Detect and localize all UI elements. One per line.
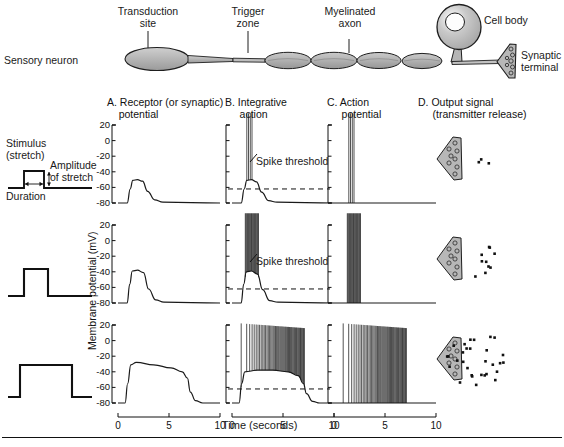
- myelinated-axon-shape: [265, 52, 442, 68]
- x-tick-label: 0: [108, 420, 128, 431]
- stimulus-pulse-row2: [0, 255, 96, 303]
- trace-integrative-action-row3: [232, 370, 334, 403]
- spike-train-col1-row1: [247, 113, 252, 180]
- stimulus-legend-title: Stimulus (stretch): [6, 138, 46, 161]
- y-axis-row1-col1: [226, 125, 230, 203]
- y-tick-label: -40: [88, 166, 110, 177]
- trace-receptor-potential-row1: [118, 180, 220, 203]
- synaptic-terminal-output-row1: [437, 137, 462, 180]
- column-header-c: C. Action potential: [327, 97, 381, 121]
- bottom-rule: [2, 437, 562, 438]
- trace-receptor-potential-row2: [118, 270, 220, 303]
- y-axis-row1-col0: [112, 125, 116, 203]
- y-axis-row3-col2: [328, 325, 332, 403]
- spike-threshold-leader-row1: [248, 153, 262, 167]
- y-tick-label: 0: [88, 235, 110, 246]
- figure-root: Transduction site Trigger zone Myelinate…: [0, 0, 564, 447]
- spike-train-col1-row2: [245, 213, 258, 277]
- trace-integrative-action-row2: [232, 271, 334, 303]
- x-tick-label: 0: [324, 420, 344, 431]
- spike-train-col2-row2: [347, 213, 360, 303]
- label-trigger-zone: Trigger zone: [206, 6, 290, 29]
- axon-initial-segment: [188, 56, 265, 64]
- y-axis-row3-col1: [226, 325, 230, 403]
- spike-train-col1-row3: [241, 323, 304, 387]
- stimulus-pulse-row1: [0, 160, 96, 196]
- y-tick-label: -20: [88, 350, 110, 361]
- y-tick-label: 0: [88, 335, 110, 346]
- stimulus-pulse-row3: [0, 352, 96, 404]
- transmitter-dots-row3: [446, 336, 505, 387]
- y-tick-label: 20: [88, 119, 110, 130]
- column-header-d: D. Output signal (transmitter release): [418, 97, 527, 121]
- x-axis-row3-col1: [232, 413, 334, 417]
- x-axis-row3-col2: [334, 413, 436, 417]
- spike-train-col2-row3: [343, 323, 406, 403]
- x-tick-label: 5: [375, 420, 395, 431]
- y-tick-label: -80: [88, 397, 110, 408]
- y-tick-label: -60: [88, 381, 110, 392]
- y-tick-label: 0: [88, 135, 110, 146]
- synaptic-terminal-output-row2: [437, 237, 462, 280]
- y-tick-label: -80: [88, 197, 110, 208]
- y-tick-label: 20: [88, 319, 110, 330]
- y-tick-label: -20: [88, 150, 110, 161]
- spike-threshold-leader-row2: [248, 253, 262, 267]
- x-axis-label: Time (seconds): [222, 420, 297, 432]
- label-transduction-site: Transduction site: [86, 6, 210, 29]
- spike-train-col2-row1: [349, 113, 354, 203]
- label-cell-body: Cell body: [484, 15, 528, 27]
- transmitter-dots-row1: [478, 158, 491, 165]
- label-sensory-neuron: Sensory neuron: [4, 55, 78, 67]
- y-axis-row3-col0: [112, 325, 116, 403]
- spike-threshold-label-row2: Spike threshold: [256, 256, 328, 268]
- label-synaptic-terminal: Synaptic terminal: [521, 50, 561, 73]
- y-axis-row1-col2: [328, 125, 332, 203]
- y-axis-row2-col2: [328, 225, 332, 303]
- y-tick-label: -40: [88, 266, 110, 277]
- x-tick-label: 5: [159, 420, 179, 431]
- x-tick-label: 10: [426, 420, 446, 431]
- column-header-a: A. Receptor (or synaptic) potential: [107, 97, 223, 121]
- trace-receptor-potential-row3: [118, 362, 220, 403]
- transmitter-dots-row2: [474, 246, 496, 278]
- annotation-leaders: [148, 31, 349, 53]
- y-tick-label: -40: [88, 366, 110, 377]
- x-axis-row3-col0: [118, 413, 220, 417]
- y-tick-label: -60: [88, 181, 110, 192]
- y-axis-row2-col0: [112, 225, 116, 303]
- label-myelinated-axon: Myelinated axon: [300, 6, 400, 29]
- spike-threshold-label-row1: Spike threshold: [256, 156, 328, 168]
- y-tick-label: -20: [88, 250, 110, 261]
- column-header-b: B. Integrative action: [225, 97, 287, 121]
- y-tick-label: 20: [88, 219, 110, 230]
- synaptic-terminal-output-row3: [437, 337, 462, 380]
- y-tick-label: -80: [88, 297, 110, 308]
- y-axis-row2-col1: [226, 225, 230, 303]
- cell-body-shape: [437, 5, 481, 63]
- trace-integrative-action-row1: [232, 180, 334, 203]
- y-tick-label: -60: [88, 281, 110, 292]
